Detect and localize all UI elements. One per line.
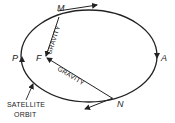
gravity-label-top: GRAVITY [45,24,61,55]
label-m: M [57,3,65,13]
caption-pointer-arrow [26,84,33,100]
label-a: A [160,53,167,63]
satellite-orbit-diagram: M F P A N GRAVITY GRAVITY SATELLITE ORBI… [0,0,175,123]
orbit-direction-arrow-right [154,53,160,59]
orbit-direction-arrow-left [19,56,25,62]
caption-line-2: ORBIT [14,111,37,118]
label-p: P [12,53,18,63]
caption-line-1: SATELLITE [7,101,45,108]
gravity-label-bottom: GRAVITY [56,65,86,87]
velocity-arrow-n [85,98,113,109]
label-n: N [117,99,124,109]
label-f: F [36,53,42,63]
